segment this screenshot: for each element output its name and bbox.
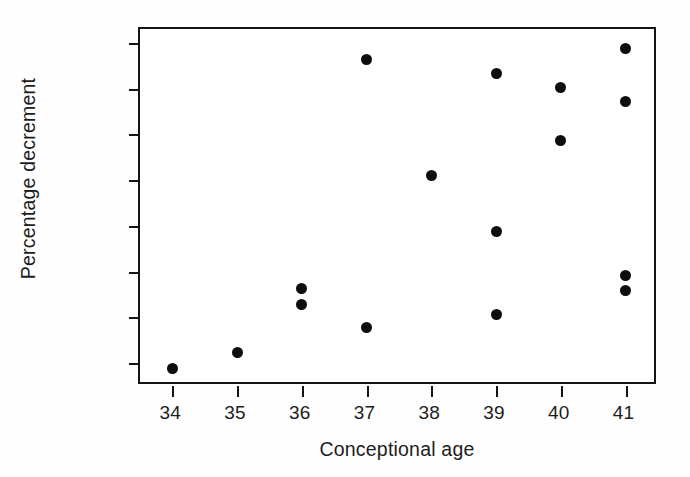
- x-axis-tick: [172, 386, 174, 397]
- y-axis-tick: [129, 363, 140, 365]
- data-point: [620, 285, 631, 296]
- y-axis-tick: [129, 226, 140, 228]
- y-axis-tick: [129, 180, 140, 182]
- data-point: [555, 82, 566, 93]
- data-point: [361, 54, 372, 65]
- data-point: [620, 43, 631, 54]
- data-point: [167, 363, 178, 374]
- data-point: [555, 135, 566, 146]
- x-axis-tick: [496, 386, 498, 397]
- data-point: [620, 96, 631, 107]
- data-point: [361, 322, 372, 333]
- x-axis-tick-label: 40: [534, 403, 584, 422]
- data-point: [620, 270, 631, 281]
- x-axis-tick-label: 36: [275, 403, 325, 422]
- scatter-plot-figure: Percentage decrement Conceptional age −1…: [0, 0, 690, 477]
- x-axis-tick: [431, 386, 433, 397]
- data-point: [491, 68, 502, 79]
- data-point: [296, 299, 307, 310]
- y-axis-tick: [129, 317, 140, 319]
- data-point: [426, 170, 437, 181]
- y-axis-tick: [129, 43, 140, 45]
- plot-area: [138, 27, 656, 384]
- x-axis-tick: [561, 386, 563, 397]
- data-points-layer: [140, 29, 658, 386]
- x-axis-tick-label: 35: [210, 403, 260, 422]
- x-axis-tick: [367, 386, 369, 397]
- data-point: [296, 283, 307, 294]
- x-axis-title: Conceptional age: [138, 437, 656, 461]
- y-axis-tick: [129, 89, 140, 91]
- data-point: [491, 309, 502, 320]
- y-axis-tick: [129, 134, 140, 136]
- x-axis-tick: [626, 386, 628, 397]
- x-axis-tick: [302, 386, 304, 397]
- x-axis-tick-label: 34: [145, 403, 195, 422]
- x-axis-tick-label: 41: [599, 403, 649, 422]
- x-axis-tick-label: 38: [404, 403, 454, 422]
- x-axis-tick-label: 39: [469, 403, 519, 422]
- x-axis-tick: [237, 386, 239, 397]
- data-point: [232, 347, 243, 358]
- y-axis-title: Percentage decrement: [16, 0, 46, 357]
- y-axis-tick: [129, 272, 140, 274]
- data-point: [491, 226, 502, 237]
- x-axis-tick-label: 37: [340, 403, 390, 422]
